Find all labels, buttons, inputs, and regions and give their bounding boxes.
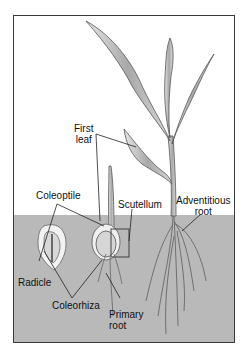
label-radicle: Radicle xyxy=(18,277,51,288)
label-adventitious-root: Adventitious root xyxy=(176,195,230,217)
label-first-leaf-line2: leaf xyxy=(74,134,93,145)
mature-plant xyxy=(86,21,214,334)
diagram-frame: First leaf Coleoptile Scutellum Adventit… xyxy=(13,15,235,343)
label-first-leaf-line1: First xyxy=(74,123,93,134)
label-primary-line1: Primary xyxy=(109,309,143,320)
label-adventitious-line1: Adventitious xyxy=(176,195,230,206)
plant-illustration xyxy=(14,16,235,343)
label-first-leaf: First leaf xyxy=(74,123,93,145)
label-coleorhiza: Coleorhiza xyxy=(52,300,100,311)
label-scutellum: Scutellum xyxy=(118,199,162,210)
label-primary-line2: root xyxy=(109,320,143,331)
label-adventitious-line2: root xyxy=(176,206,230,217)
label-primary-root: Primary root xyxy=(109,309,143,331)
seed xyxy=(38,225,66,270)
seedling xyxy=(92,166,129,316)
label-coleoptile: Coleoptile xyxy=(36,190,80,201)
